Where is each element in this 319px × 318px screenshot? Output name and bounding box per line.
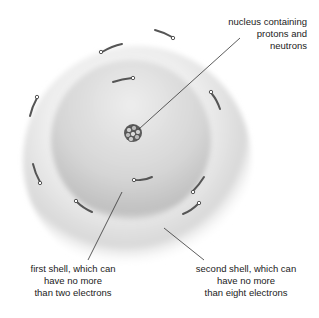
- second-shell-label: second shell, which can have no more tha…: [196, 263, 296, 299]
- nucleus-label-line: neutrons: [228, 40, 307, 52]
- nucleus-label-line: nucleus containing: [228, 16, 307, 28]
- second-shell-label-line: second shell, which can: [196, 263, 296, 275]
- nucleus-label: nucleus containing protons and neutrons: [228, 16, 307, 52]
- second-shell-label-line: than eight electrons: [196, 287, 296, 299]
- nucleus: [124, 124, 142, 142]
- second-shell-label-line: have no more: [196, 275, 296, 287]
- electron: [155, 30, 175, 40]
- nucleus-label-line: protons and: [228, 28, 307, 40]
- first-shell-label-line: have no more: [30, 275, 115, 287]
- first-shell-label-line: than two electrons: [30, 287, 115, 299]
- first-shell-label-line: first shell, which can: [30, 263, 115, 275]
- first-shell-label: first shell, which can have no more than…: [30, 263, 115, 299]
